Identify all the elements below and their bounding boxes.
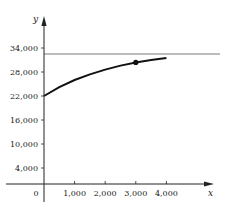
y-tick-label: 4,000 [15, 164, 38, 173]
y-axis-arrow-icon [41, 16, 46, 26]
y-tick-label: 28,000 [10, 68, 38, 77]
x-axis-arrow-icon [204, 181, 214, 186]
x-tick-label: 2,000 [94, 189, 117, 198]
y-tick-label: 16,000 [10, 116, 38, 125]
highlighted-point [133, 60, 138, 65]
y-tick-label: 10,000 [10, 140, 38, 149]
y-axis-label: y [32, 14, 39, 24]
y-tick-label: 34,000 [10, 44, 38, 53]
x-tick-label: 1,000 [63, 189, 86, 198]
y-tick-label: 22,000 [10, 92, 38, 101]
x-tick-label: 4,000 [155, 189, 178, 198]
x-tick-label: 3,000 [124, 189, 147, 198]
y-axis-ticks: 4,00010,00016,00022,00028,00034,000 [10, 44, 44, 173]
x-tick-label: 0 [33, 189, 38, 198]
x-axis-label: x [208, 188, 213, 198]
data-curve [44, 58, 166, 96]
chart: 4,00010,00016,00022,00028,00034,000 01,0… [0, 0, 227, 212]
